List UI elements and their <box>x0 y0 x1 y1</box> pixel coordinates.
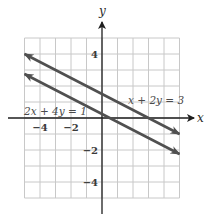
axes <box>8 22 194 214</box>
x-tick-label: −2 <box>63 122 78 133</box>
x-tick-label: −4 <box>32 122 47 133</box>
equation-label-line1: x + 2y = 3 <box>128 94 184 106</box>
y-tick-label: 4 <box>91 49 98 60</box>
coordinate-plane: −4−24−2−4 y x x + 2y = 3 2x + 4y = 1 <box>0 0 213 221</box>
x-axis-label: x <box>197 111 204 125</box>
y-tick-label: −4 <box>83 177 98 188</box>
y-axis-label: y <box>98 4 106 18</box>
equation-label-line2: 2x + 4y = 1 <box>23 105 87 117</box>
y-tick-label: −2 <box>83 145 98 156</box>
